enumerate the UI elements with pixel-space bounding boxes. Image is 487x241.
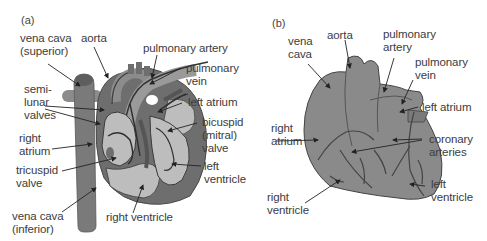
panel-b-label: (b) xyxy=(272,17,285,29)
label-pulmonary-vein-b: pulmonary vein xyxy=(415,56,468,82)
label-left-atrium-b: left atrium xyxy=(422,101,471,114)
label-vena-cava-b: vena cava xyxy=(288,35,313,61)
label-right-ventricle-b: right ventricle xyxy=(267,191,309,217)
label-left-ventricle-a: left ventricle xyxy=(204,160,246,186)
label-aorta-b: aorta xyxy=(327,29,353,42)
label-left-atrium-a: left atrium xyxy=(188,96,237,109)
label-tricuspid-valve: tricuspid valve xyxy=(16,164,58,190)
label-right-atrium-a: right atrium xyxy=(19,132,50,158)
label-right-ventricle-a: right ventricle xyxy=(106,211,173,224)
label-pulmonary-vein-a: pulmonary vein xyxy=(186,62,239,88)
label-aorta-a: aorta xyxy=(81,32,107,45)
label-semilunar-valves: semi- lunar valves xyxy=(24,83,56,122)
panel-a-label: (a) xyxy=(21,14,34,26)
label-vena-cava-superior: vena cava (superior) xyxy=(20,32,72,58)
label-right-atrium-b: right atrium xyxy=(271,122,302,148)
label-vena-cava-inferior: vena cava (inferior) xyxy=(12,210,64,236)
label-bicuspid-valve: bicuspid (mitral) valve xyxy=(202,116,243,155)
label-coronary-arteries: coronary arteries xyxy=(429,133,473,159)
label-left-ventricle-b: left ventricle xyxy=(431,178,473,204)
label-pulmonary-artery-a: pulmonary artery xyxy=(143,42,228,55)
label-pulmonary-artery-b: pulmonary artery xyxy=(383,28,436,54)
